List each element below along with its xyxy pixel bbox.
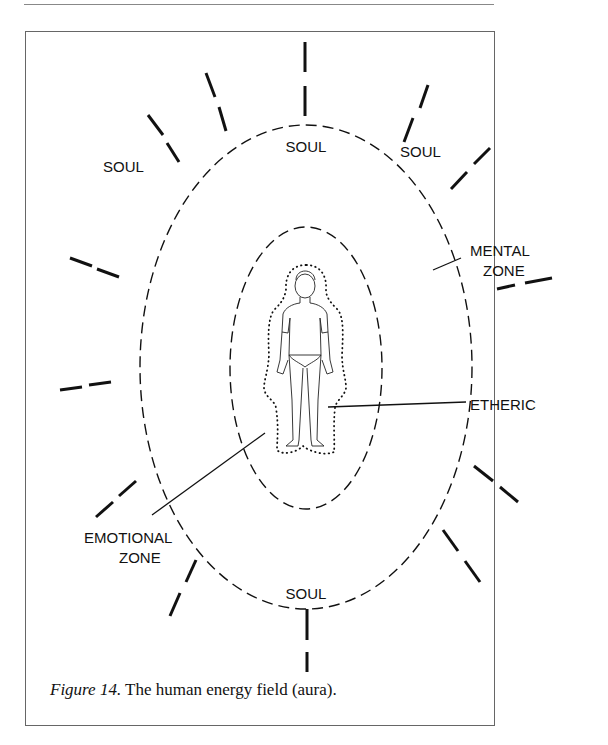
figure-caption: Figure 14. The human energy field (aura)… bbox=[50, 680, 337, 700]
label-mental-zone-2: ZONE bbox=[483, 262, 525, 279]
mental-zone-ellipse bbox=[140, 125, 472, 609]
figure-number: Figure 14. bbox=[50, 680, 121, 699]
human-figure bbox=[277, 271, 333, 446]
label-soul-upper-right: SOUL bbox=[400, 143, 441, 160]
aura-diagram: SOUL SOUL SOUL MENTAL ZONE ETHERIC EMOTI… bbox=[0, 0, 608, 745]
label-etheric: ETHERIC bbox=[470, 396, 536, 413]
label-soul-bottom: SOUL bbox=[286, 585, 327, 602]
label-soul-top: SOUL bbox=[286, 138, 327, 155]
label-emotional-zone-1: EMOTIONAL bbox=[84, 529, 172, 546]
etheric-outline bbox=[264, 265, 346, 454]
label-emotional-zone-2: ZONE bbox=[119, 549, 161, 566]
caption-text: The human energy field (aura). bbox=[121, 680, 337, 699]
label-mental-zone-1: MENTAL bbox=[470, 242, 530, 259]
emotional-zone-ellipse bbox=[230, 227, 382, 509]
soul-rays bbox=[60, 42, 552, 672]
label-soul-upper-left: SOUL bbox=[103, 158, 144, 175]
